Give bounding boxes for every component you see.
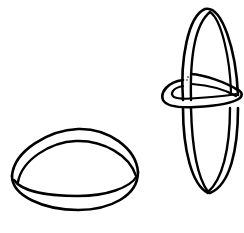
flat-ring-drawing <box>12 129 138 210</box>
ring-illustration <box>0 0 244 233</box>
vertical-ring-drawing <box>182 9 238 193</box>
